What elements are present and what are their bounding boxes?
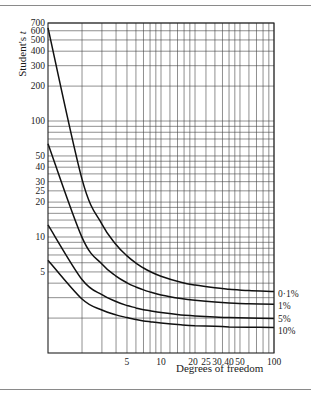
y-tick-label: 5 [40, 267, 45, 277]
x-tick-label: 100 [267, 357, 282, 367]
y-tick-label: 200 [31, 81, 46, 91]
y-tick-labels: 7006005004003002001005040302520105 [31, 18, 46, 277]
x-axis-label: Degrees of freedom [176, 362, 263, 374]
y-tick-label: 500 [31, 35, 46, 45]
y-tick-label: 40 [36, 162, 46, 172]
y-tick-label: 20 [36, 197, 46, 207]
series-label: 5% [278, 314, 291, 324]
curve-labels: 0·1%1%5%10% [278, 289, 299, 337]
y-tick-label: 400 [31, 46, 46, 56]
y-tick-label: 100 [31, 116, 46, 126]
y-tick-label: 50 [36, 151, 46, 161]
series-label: 1% [278, 301, 291, 311]
series-label: 10% [278, 326, 296, 336]
y-tick-label: 10 [36, 232, 46, 242]
x-tick-label: 10 [156, 357, 166, 367]
chart: 7006005004003002001005040302520105 51020… [0, 0, 311, 395]
y-tick-label: 25 [36, 186, 46, 196]
y-tick-label: 300 [31, 61, 46, 71]
series-label: 0·1% [278, 289, 299, 299]
y-axis-label: Student's t [16, 14, 28, 94]
x-tick-label: 5 [125, 357, 130, 367]
